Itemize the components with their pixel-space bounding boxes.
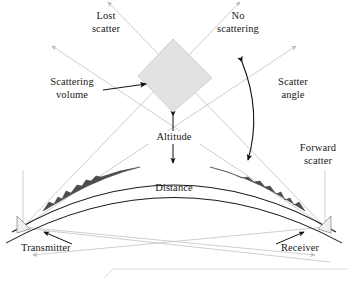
label-transmitter: Transmitter (21, 242, 101, 255)
antennas-group (17, 216, 331, 233)
label-distance: Distance (146, 182, 202, 195)
receiver-ray-upper (108, 2, 325, 227)
scatter-angle-arc (242, 62, 254, 160)
label-lost-scatter: Lost scatter (73, 10, 139, 35)
label-no-scattering: No scattering (198, 10, 278, 35)
figure-caption-bar: FIGURE 13-15 Tropospheric scatter. (0, 262, 348, 297)
label-altitude: Altitude (148, 131, 200, 144)
transmitter-ray-upper (23, 2, 240, 227)
figure-container: Lost scatter No scattering Scattering vo… (0, 0, 348, 297)
receiver-antenna-icon (318, 216, 331, 233)
scattering-volume-diamond (138, 39, 212, 112)
label-scatter-angle: Scatter angle (262, 76, 324, 101)
label-receiver: Receiver (281, 242, 347, 255)
transmitter-antenna-icon (17, 216, 30, 233)
label-forward-scatter: Forward scatter (288, 142, 348, 167)
scattering-volume-leader (103, 84, 146, 90)
label-scattering-volume: Scattering volume (38, 76, 106, 101)
